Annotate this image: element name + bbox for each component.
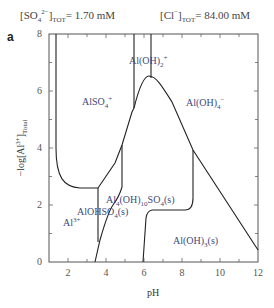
svg-text:8: 8 xyxy=(180,267,185,278)
label-alohso4: AlOHSO4(s) xyxy=(77,206,128,220)
svg-text:10: 10 xyxy=(215,267,225,278)
label-al3: Al3+ xyxy=(63,216,81,228)
y-tick-labels: 0 2 4 6 8 xyxy=(37,28,42,267)
predominance-diagram: 2 4 6 8 10 12 0 2 4 6 8 pH −log[Al3+]Tot… xyxy=(0,0,274,308)
svg-text:0: 0 xyxy=(37,256,42,267)
phase-boundaries xyxy=(56,34,258,262)
x-ticks xyxy=(68,34,239,262)
svg-text:2: 2 xyxy=(37,199,42,210)
y-axis-title: −log[Al3+]Total xyxy=(14,120,29,177)
svg-text:6: 6 xyxy=(142,267,147,278)
plot-frame xyxy=(49,34,258,262)
label-aloh2: Al(OH)2+ xyxy=(129,54,168,69)
label-al4oh10so4: Al4(OH)10SO4(s) xyxy=(106,194,174,208)
boundary-left-alSO4 xyxy=(56,34,98,188)
svg-text:4: 4 xyxy=(104,267,109,278)
svg-text:12: 12 xyxy=(253,267,263,278)
x-axis-title: pH xyxy=(147,287,159,298)
label-aloh3: Al(OH)3(s) xyxy=(173,235,218,249)
label-aloh4: Al(OH)4− xyxy=(186,96,225,111)
svg-text:6: 6 xyxy=(37,85,42,96)
boundary-also4-diagonal xyxy=(98,108,134,188)
x-tick-labels: 2 4 6 8 10 12 xyxy=(66,267,264,278)
label-also4: AlSO4+ xyxy=(82,95,112,110)
svg-text:4: 4 xyxy=(37,142,42,153)
svg-text:8: 8 xyxy=(37,28,42,39)
boundary-ph8-vertical xyxy=(185,150,193,210)
svg-text:2: 2 xyxy=(66,267,71,278)
